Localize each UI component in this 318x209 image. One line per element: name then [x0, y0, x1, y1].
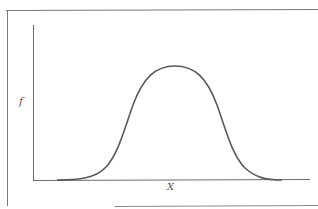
outer-frame: [6, 10, 318, 207]
frame-top: [6, 10, 318, 11]
y-axis-label: f: [19, 96, 23, 107]
frame-bottom: [115, 206, 318, 207]
axes: [33, 25, 310, 181]
density-diagram: f X: [0, 0, 318, 209]
diagram-canvas: [0, 0, 318, 209]
x-axis-label: X: [167, 182, 174, 192]
density-curve: [57, 66, 282, 180]
